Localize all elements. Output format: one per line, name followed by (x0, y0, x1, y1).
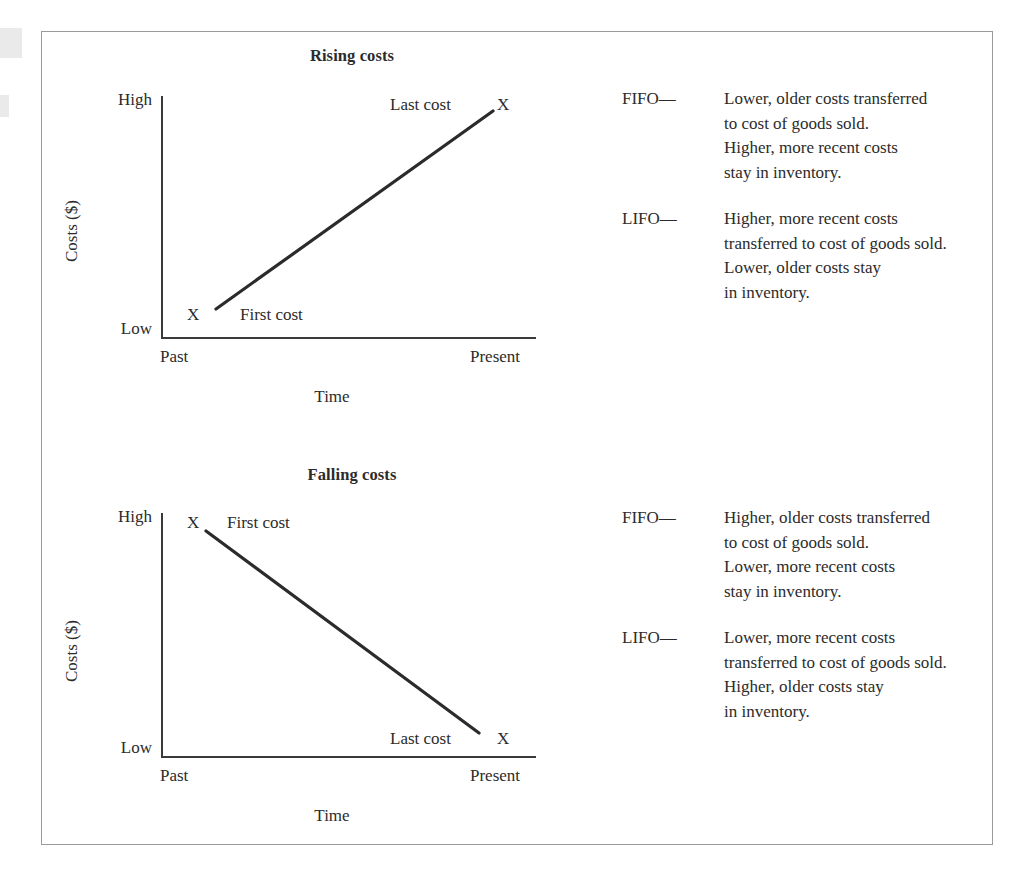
note-line: in inventory. (724, 700, 994, 725)
x-axis-line-falling (161, 756, 536, 758)
x-axis-title-rising: Time (102, 387, 562, 407)
note-block-lifo-rising: LIFO— Higher, more recent costs transfer… (622, 207, 994, 305)
note-term-lifo-falling: LIFO— (622, 626, 724, 651)
note-line: stay in inventory. (724, 161, 994, 186)
note-lines-lifo-rising: Higher, more recent costs transferred to… (724, 207, 994, 305)
plot-area-falling: High Low Costs ($) Past Present Time X F… (42, 432, 662, 846)
x-tick-past-falling: Past (160, 766, 188, 786)
trend-line-falling (42, 432, 662, 846)
panel-falling-costs: Falling costs High Low Costs ($) Past Pr… (42, 432, 994, 846)
plot-area-rising: High Low Costs ($) Past Present Time X F… (42, 32, 662, 432)
x-tick-past-rising: Past (160, 347, 188, 367)
marker-first-cost-falling: X (187, 513, 199, 533)
note-term-fifo-falling: FIFO— (622, 506, 724, 531)
y-tick-high-falling: High (82, 507, 152, 527)
note-term-fifo-rising: FIFO— (622, 87, 724, 112)
y-tick-low-falling: Low (82, 738, 152, 758)
notes-falling: FIFO— Higher, older costs transferred to… (622, 506, 994, 724)
marker-first-cost-rising: X (187, 305, 199, 325)
y-axis-line-falling (161, 513, 163, 756)
label-first-cost-rising: First cost (240, 305, 303, 325)
y-tick-low-rising: Low (82, 319, 152, 339)
note-line: transferred to cost of goods sold. (724, 232, 994, 257)
note-line: Lower, more recent costs (724, 555, 994, 580)
y-axis-line-rising (161, 96, 163, 337)
marker-last-cost-rising: X (497, 95, 509, 115)
x-tick-present-falling: Present (470, 766, 520, 786)
note-line: to cost of goods sold. (724, 531, 994, 556)
y-axis-title-falling: Costs ($) (62, 620, 82, 682)
x-axis-line-rising (161, 337, 536, 339)
note-line: stay in inventory. (724, 580, 994, 605)
note-line: Lower, more recent costs (724, 626, 994, 651)
note-block-lifo-falling: LIFO— Lower, more recent costs transferr… (622, 626, 994, 724)
note-line: Higher, older costs transferred (724, 506, 994, 531)
note-term-lifo-rising: LIFO— (622, 207, 724, 232)
y-tick-high-rising: High (82, 90, 152, 110)
note-line: Higher, more recent costs (724, 207, 994, 232)
label-last-cost-rising: Last cost (390, 95, 451, 115)
note-line: transferred to cost of goods sold. (724, 651, 994, 676)
note-line: Lower, older costs stay (724, 256, 994, 281)
note-line: Lower, older costs transferred (724, 87, 994, 112)
note-lines-lifo-falling: Lower, more recent costs transferred to … (724, 626, 994, 724)
note-lines-fifo-rising: Lower, older costs transferred to cost o… (724, 87, 994, 185)
x-axis-title-falling: Time (102, 806, 562, 826)
label-last-cost-falling: Last cost (390, 729, 451, 749)
x-tick-present-rising: Present (470, 347, 520, 367)
label-first-cost-falling: First cost (227, 513, 290, 533)
marker-last-cost-falling: X (497, 729, 509, 749)
note-line: in inventory. (724, 281, 994, 306)
note-lines-fifo-falling: Higher, older costs transferred to cost … (724, 506, 994, 604)
note-block-fifo-rising: FIFO— Lower, older costs transferred to … (622, 87, 994, 185)
notes-rising: FIFO— Lower, older costs transferred to … (622, 87, 994, 305)
scan-artifact-top (0, 28, 22, 58)
figure-frame: Rising costs High Low Costs ($) Past Pre… (41, 31, 993, 845)
scan-artifact-lower (0, 95, 9, 117)
note-line: Higher, more recent costs (724, 136, 994, 161)
note-block-fifo-falling: FIFO— Higher, older costs transferred to… (622, 506, 994, 604)
y-axis-title-rising: Costs ($) (62, 200, 82, 262)
note-line: Higher, older costs stay (724, 675, 994, 700)
note-line: to cost of goods sold. (724, 112, 994, 137)
panel-rising-costs: Rising costs High Low Costs ($) Past Pre… (42, 32, 994, 432)
